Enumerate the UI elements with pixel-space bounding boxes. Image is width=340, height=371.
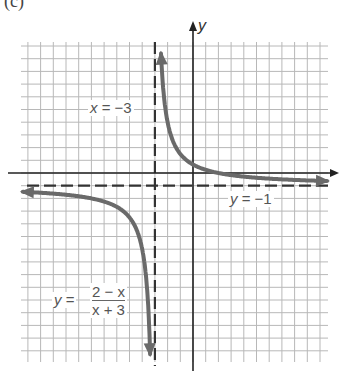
asymptotes [27, 42, 328, 366]
function-fraction: 2 − x x + 3 [90, 283, 127, 318]
graph-canvas: y [0, 0, 340, 371]
fraction-denominator: x + 3 [92, 300, 125, 318]
ha-eq: = −1 [238, 190, 272, 207]
horizontal-asymptote-label: y = −1 [228, 191, 274, 207]
fraction-numerator: 2 − x [92, 283, 125, 300]
fn-eq: = [62, 291, 75, 308]
va-eq: = −3 [98, 99, 132, 116]
function-label-lhs: y = [52, 292, 76, 308]
y-axis-label: y [197, 17, 207, 34]
va-var: x [90, 99, 98, 116]
fn-var: y [54, 291, 62, 308]
vertical-asymptote-label: x = −3 [88, 100, 134, 116]
ha-var: y [230, 190, 238, 207]
grid [21, 42, 328, 362]
